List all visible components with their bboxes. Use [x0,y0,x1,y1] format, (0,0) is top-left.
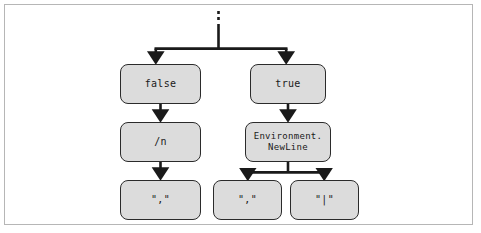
node-true: true [250,64,326,104]
node-slash-n: /n [120,122,201,162]
node-comma-literal-middle: "," [213,180,282,220]
node-false: false [120,64,201,104]
newline-split-connector [247,162,326,175]
node-comma-literal-left: "," [120,180,201,220]
node-environment-newline: Environment. NewLine [245,122,331,162]
diagram-figure: false true /n Environment. NewLine "," "… [0,0,481,233]
node-pipe-literal-right: "|" [290,180,359,220]
top-split-connector [155,49,288,58]
